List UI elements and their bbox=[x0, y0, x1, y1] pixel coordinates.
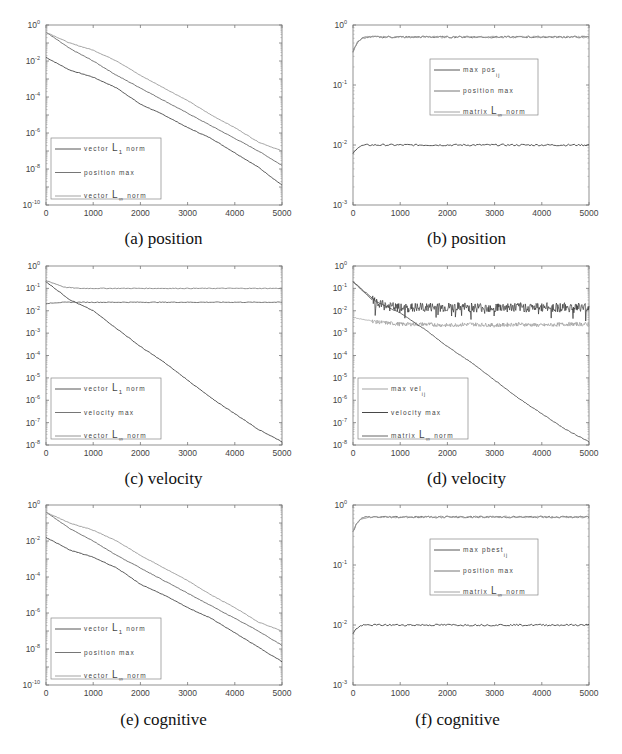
y-tick-label: 10-8 bbox=[26, 643, 40, 654]
y-tick-label: 10-8 bbox=[333, 439, 347, 450]
x-tick-label: 0 bbox=[351, 208, 356, 218]
chart-panel-c: 01000200030004000500010010-110-210-310-4… bbox=[0, 250, 311, 470]
y-tick-label: 10-4 bbox=[26, 350, 40, 361]
legend-entry: position max bbox=[463, 567, 514, 575]
series-line bbox=[46, 302, 282, 304]
legend: vector L1 normposition maxvector L∞ norm bbox=[51, 618, 161, 682]
x-tick-label: 4000 bbox=[225, 208, 244, 218]
y-tick-label: 10-1 bbox=[333, 282, 347, 293]
y-tick-label: 10-3 bbox=[333, 679, 347, 690]
legend: vector L1 normvelocity maxvector L∞ norm bbox=[51, 378, 161, 442]
series-line bbox=[353, 516, 589, 531]
y-tick-label: 10-2 bbox=[26, 535, 40, 546]
chart-panel-b: 01000200030004000500010010-110-210-3max … bbox=[311, 0, 622, 230]
legend: max posijposition maxmatrix L∞ norm bbox=[430, 59, 538, 118]
chart-b-svg: 01000200030004000500010010-110-210-3max … bbox=[311, 0, 622, 230]
x-tick-label: 4000 bbox=[532, 448, 551, 458]
x-tick-label: 0 bbox=[351, 688, 356, 698]
y-tick-label: 10-10 bbox=[23, 199, 40, 210]
x-tick-label: 3000 bbox=[178, 448, 197, 458]
legend-entry: position max bbox=[84, 169, 135, 177]
y-tick-label: 10-5 bbox=[333, 372, 347, 383]
y-tick-label: 10-6 bbox=[26, 127, 40, 138]
x-tick-label: 1000 bbox=[391, 208, 410, 218]
y-tick-label: 10-7 bbox=[26, 417, 40, 428]
x-tick-label: 1000 bbox=[84, 448, 103, 458]
y-tick-label: 10-1 bbox=[26, 282, 40, 293]
x-tick-label: 4000 bbox=[532, 208, 551, 218]
y-tick-label: 10-10 bbox=[23, 679, 40, 690]
caption-f: (f) cognitive bbox=[302, 710, 613, 730]
y-tick-label: 10-3 bbox=[333, 327, 347, 338]
y-tick-label: 10-4 bbox=[333, 350, 347, 361]
y-tick-label: 100 bbox=[27, 19, 40, 30]
legend: vector L1 normposition maxvector L∞ norm bbox=[51, 138, 161, 202]
x-tick-label: 1000 bbox=[391, 688, 410, 698]
y-tick-label: 10-8 bbox=[26, 439, 40, 450]
y-tick-label: 100 bbox=[334, 260, 347, 271]
chart-panel-e: 01000200030004000500010010-210-410-610-8… bbox=[0, 490, 311, 710]
x-tick-label: 5000 bbox=[580, 208, 599, 218]
y-tick-label: 10-6 bbox=[26, 607, 40, 618]
x-tick-label: 3000 bbox=[485, 208, 504, 218]
y-tick-label: 10-8 bbox=[26, 163, 40, 174]
y-tick-label: 10-3 bbox=[333, 199, 347, 210]
chart-d-svg: 01000200030004000500010010-110-210-310-4… bbox=[311, 250, 622, 470]
caption-d: (d) velocity bbox=[311, 469, 622, 489]
chart-panel-f: 01000200030004000500010010-110-210-3max … bbox=[311, 490, 622, 710]
series-line bbox=[353, 36, 589, 52]
caption-a: (a) position bbox=[8, 229, 319, 249]
y-tick-label: 100 bbox=[334, 499, 347, 510]
x-tick-label: 2000 bbox=[438, 688, 457, 698]
x-tick-label: 5000 bbox=[273, 448, 292, 458]
x-tick-label: 3000 bbox=[178, 688, 197, 698]
chart-panel-d: 01000200030004000500010010-110-210-310-4… bbox=[311, 250, 622, 470]
x-tick-label: 3000 bbox=[485, 448, 504, 458]
y-tick-label: 100 bbox=[334, 19, 347, 30]
chart-a-svg: 01000200030004000500010010-210-410-610-8… bbox=[0, 0, 311, 230]
y-tick-label: 10-5 bbox=[26, 372, 40, 383]
caption-e: (e) cognitive bbox=[8, 710, 319, 730]
y-tick-label: 100 bbox=[27, 499, 40, 510]
series-line bbox=[46, 280, 282, 288]
x-tick-label: 4000 bbox=[225, 688, 244, 698]
x-tick-label: 5000 bbox=[273, 208, 292, 218]
legend: max pbestijposition maxmatrix L∞ norm bbox=[430, 539, 538, 598]
x-tick-label: 2000 bbox=[438, 208, 457, 218]
x-tick-label: 3000 bbox=[485, 688, 504, 698]
chart-e-svg: 01000200030004000500010010-210-410-610-8… bbox=[0, 490, 311, 710]
series-line bbox=[353, 282, 589, 321]
x-tick-label: 2000 bbox=[438, 448, 457, 458]
x-tick-label: 4000 bbox=[532, 688, 551, 698]
x-tick-label: 5000 bbox=[580, 448, 599, 458]
caption-c: (c) velocity bbox=[8, 469, 319, 489]
y-tick-label: 10-4 bbox=[26, 91, 40, 102]
x-tick-label: 1000 bbox=[391, 448, 410, 458]
legend-entry: position max bbox=[84, 649, 135, 657]
x-tick-label: 1000 bbox=[84, 208, 103, 218]
y-tick-label: 10-2 bbox=[333, 619, 347, 630]
chart-panel-a: 01000200030004000500010010-210-410-610-8… bbox=[0, 0, 311, 230]
x-tick-label: 5000 bbox=[580, 688, 599, 698]
y-tick-label: 10-3 bbox=[26, 327, 40, 338]
caption-b: (b) position bbox=[311, 229, 622, 249]
y-tick-label: 100 bbox=[27, 260, 40, 271]
x-tick-label: 4000 bbox=[225, 448, 244, 458]
x-tick-label: 0 bbox=[44, 688, 49, 698]
series-line bbox=[353, 516, 589, 532]
y-tick-label: 10-4 bbox=[26, 571, 40, 582]
legend-entry: velocity max bbox=[84, 409, 134, 417]
legend: max velijvelocity maxmatrix L∞ norm bbox=[358, 378, 468, 442]
x-tick-label: 5000 bbox=[273, 688, 292, 698]
y-tick-label: 10-2 bbox=[26, 305, 40, 316]
legend-entry: velocity max bbox=[391, 409, 441, 417]
series-line bbox=[353, 144, 589, 154]
y-tick-label: 10-1 bbox=[333, 79, 347, 90]
x-tick-label: 2000 bbox=[131, 208, 150, 218]
x-tick-label: 1000 bbox=[84, 688, 103, 698]
series-line bbox=[353, 36, 589, 52]
x-tick-label: 3000 bbox=[178, 208, 197, 218]
y-tick-label: 10-6 bbox=[26, 394, 40, 405]
x-tick-label: 2000 bbox=[131, 448, 150, 458]
series-line bbox=[46, 512, 282, 631]
